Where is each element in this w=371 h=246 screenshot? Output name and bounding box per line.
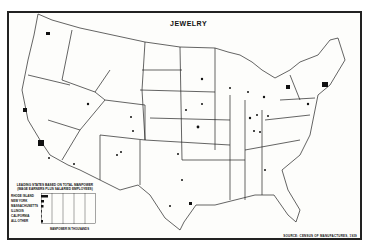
legend-row-label: ALL OTHER xyxy=(11,219,28,223)
legend-row-label: CALIFORNIA xyxy=(11,214,30,218)
source-credit: SOURCE: CENSUS OF MANUFACTURES, 1939 xyxy=(283,234,357,238)
legend: LEADING STATES BASED ON TOTAL MANPOWER (… xyxy=(10,183,100,233)
legend-row-label: ILLINOIS xyxy=(11,209,24,213)
legend-row-label: RHODE ISLAND xyxy=(11,194,34,198)
legend-row-label: NEW YORK xyxy=(11,199,27,203)
legend-bar-chart xyxy=(41,193,97,225)
legend-subtitle: (WAGE EARNERS PLUS SALARIED EMPLOYEES) xyxy=(10,187,100,191)
legend-row-label: MASSACHUSETTS xyxy=(11,204,38,208)
legend-axis-label: MANPOWER IN THOUSANDS xyxy=(50,227,89,231)
map-title: JEWELRY xyxy=(170,20,207,27)
